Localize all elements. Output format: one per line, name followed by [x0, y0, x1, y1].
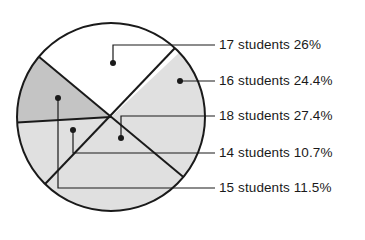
label-18-students: 18 students 27.4%: [219, 108, 333, 124]
dot-14: [70, 127, 76, 133]
label-15-students: 15 students 11.5%: [219, 180, 332, 196]
dot-18: [118, 135, 124, 141]
label-17-students: 17 students 26%: [219, 37, 321, 53]
dot-16: [177, 78, 183, 84]
dot-17: [110, 60, 116, 66]
dot-15: [55, 95, 61, 101]
label-16-students: 16 students 24.4%: [219, 73, 333, 89]
label-14-students: 14 students 10.7%: [219, 145, 333, 161]
